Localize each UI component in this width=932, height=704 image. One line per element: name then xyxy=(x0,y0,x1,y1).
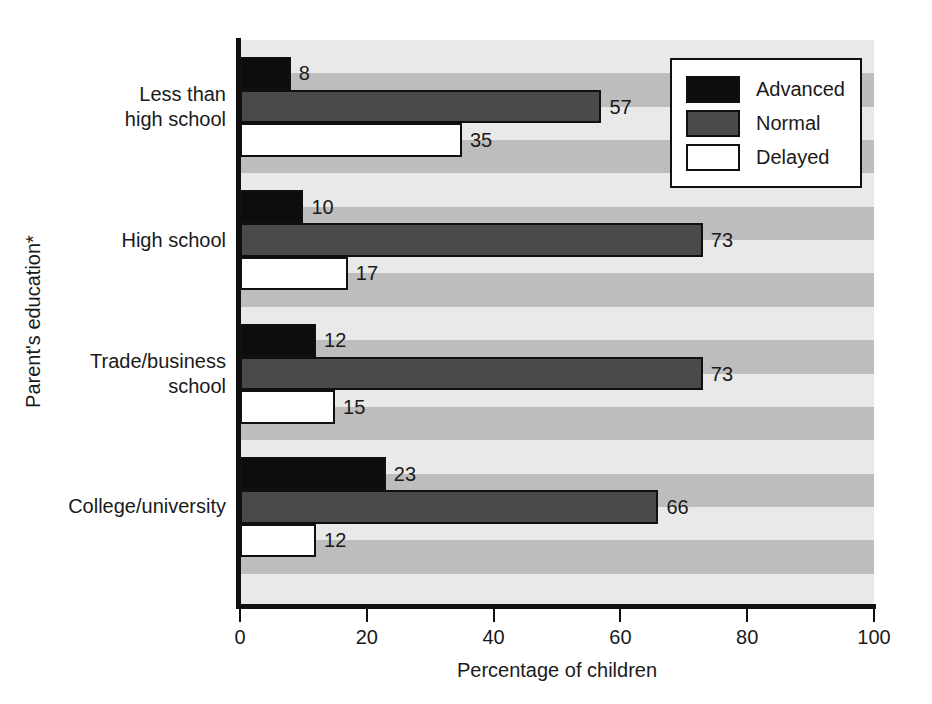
category-label-line: College/university xyxy=(26,494,226,519)
legend-swatch-advanced xyxy=(686,76,740,103)
bar-normal xyxy=(240,90,601,123)
legend-label: Delayed xyxy=(756,146,829,169)
category-label-line: High school xyxy=(26,228,226,253)
bar-delayed xyxy=(240,524,316,557)
background-band xyxy=(240,574,874,607)
x-tick xyxy=(239,609,241,622)
x-tick xyxy=(746,609,748,622)
bar-normal xyxy=(240,490,658,523)
legend-item-normal[interactable]: Normal xyxy=(686,108,820,138)
y-axis-category-labels: Less thanhigh schoolHigh schoolTrade/bus… xyxy=(22,0,226,704)
legend: AdvancedNormalDelayed xyxy=(670,58,862,188)
bar-value-label: 35 xyxy=(470,130,492,150)
bar-advanced xyxy=(240,324,316,357)
x-tick-label: 80 xyxy=(736,625,758,649)
background-band xyxy=(240,407,874,440)
category-label: College/university xyxy=(26,494,226,519)
bar-value-label: 10 xyxy=(311,197,333,217)
legend-swatch-delayed xyxy=(686,144,740,171)
category-label-line: high school xyxy=(26,107,226,132)
bar-advanced xyxy=(240,457,386,490)
x-tick xyxy=(493,609,495,622)
legend-label: Advanced xyxy=(756,78,845,101)
bar-value-label: 12 xyxy=(324,330,346,350)
x-tick-label: 40 xyxy=(482,625,504,649)
x-tick xyxy=(366,609,368,622)
category-label: Trade/businessschool xyxy=(26,349,226,399)
x-tick-label: 0 xyxy=(234,625,245,649)
bar-normal xyxy=(240,357,703,390)
bar-normal xyxy=(240,223,703,256)
bar-value-label: 12 xyxy=(324,530,346,550)
bar-value-label: 17 xyxy=(356,263,378,283)
x-axis-title: Percentage of children xyxy=(240,659,874,682)
bar-advanced xyxy=(240,57,291,90)
bar-chart: 85735107317127315236612 020406080100 Per… xyxy=(0,0,932,704)
legend-item-advanced[interactable]: Advanced xyxy=(686,74,845,104)
bar-delayed xyxy=(240,123,462,156)
bar-delayed xyxy=(240,390,335,423)
category-label-line: Less than xyxy=(26,82,226,107)
bar-value-label: 73 xyxy=(711,230,733,250)
category-label: Less thanhigh school xyxy=(26,82,226,132)
bar-value-label: 57 xyxy=(609,97,631,117)
bar-value-label: 66 xyxy=(666,497,688,517)
x-axis-line xyxy=(236,604,876,609)
bar-value-label: 8 xyxy=(299,63,310,83)
bar-value-label: 23 xyxy=(394,464,416,484)
x-tick-label: 100 xyxy=(857,625,890,649)
bar-value-label: 15 xyxy=(343,397,365,417)
category-label: High school xyxy=(26,228,226,253)
bar-delayed xyxy=(240,257,348,290)
bar-advanced xyxy=(240,190,303,223)
legend-label: Normal xyxy=(756,112,820,135)
category-label-line: Trade/business xyxy=(26,349,226,374)
x-tick xyxy=(873,609,875,622)
x-tick-label: 20 xyxy=(356,625,378,649)
x-tick xyxy=(619,609,621,622)
legend-item-delayed[interactable]: Delayed xyxy=(686,142,829,172)
category-label-line: school xyxy=(26,374,226,399)
y-axis-line xyxy=(236,38,241,609)
x-tick-label: 60 xyxy=(609,625,631,649)
legend-swatch-normal xyxy=(686,110,740,137)
bar-value-label: 73 xyxy=(711,364,733,384)
